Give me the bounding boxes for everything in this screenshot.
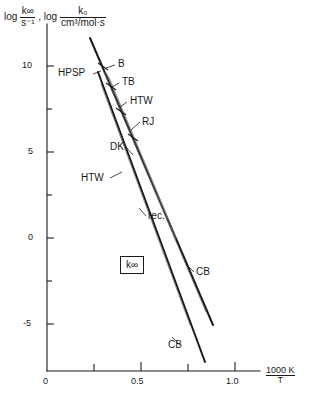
k0-sub-line-a — [104, 72, 206, 312]
leader-rec — [139, 208, 146, 216]
annotation-cb-upper: CB — [196, 266, 210, 277]
y-tick-label-0: 0 — [28, 232, 33, 242]
boxed-k-infinity-label: k∞ — [120, 256, 144, 274]
x-tick-label-1.0: 1.0 — [226, 376, 239, 386]
leader-TB — [112, 83, 119, 87]
leader-RJ — [131, 122, 140, 130]
series-k0-bundle — [90, 38, 213, 325]
annotation-hpsp: HPSP — [58, 67, 85, 78]
annotation-rj: RJ — [142, 116, 154, 127]
annotation-b: B — [118, 58, 125, 69]
x-tick-label-0.5: 0.5 — [131, 376, 144, 386]
x-axis-label-denominator: T — [266, 376, 295, 385]
arrhenius-plot — [0, 0, 318, 417]
annotation-rec: rec. — [148, 210, 165, 221]
leader-HTW2 — [110, 172, 122, 178]
leader-B — [106, 65, 115, 68]
annotation-cb-lower: CB — [168, 339, 182, 350]
annotation-leaders — [93, 65, 194, 345]
leader-HPSP — [93, 71, 101, 74]
leader-HTW1 — [120, 102, 127, 107]
y-tick-label--5: -5 — [23, 318, 31, 328]
annotation-dk: DK — [110, 141, 124, 152]
y-tick-label-10: 10 — [22, 60, 32, 70]
x-axis-label: 1000 K T — [266, 366, 295, 386]
annotation-htw-lower: HTW — [81, 172, 104, 183]
y-tick-label-5: 5 — [28, 146, 33, 156]
plot-ticks — [47, 66, 235, 371]
annotation-htw-upper: HTW — [130, 95, 153, 106]
k0-main-line — [90, 38, 213, 325]
x-tick-label-0: 0 — [43, 376, 48, 386]
annotation-tb: TB — [122, 76, 135, 87]
